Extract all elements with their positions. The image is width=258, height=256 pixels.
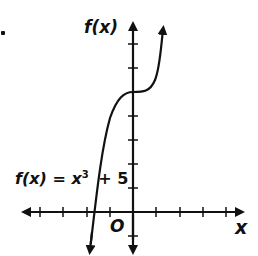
x-axis-label: x [235,216,247,238]
equation-rhs: + 5 [98,169,128,188]
cubic-graph [0,0,258,256]
equation-label: f(x) = x3 + 5 [15,169,128,188]
equation-lhs: f(x) = x [15,169,82,188]
equation-exponent: 3 [82,169,89,180]
origin-label: O [110,216,124,236]
y-axis-label: f(x) [84,17,118,37]
